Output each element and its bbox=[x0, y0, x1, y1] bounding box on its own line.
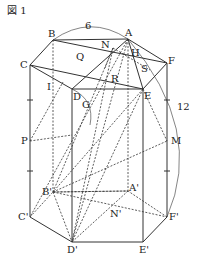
dim-right: 12 bbox=[177, 102, 190, 112]
label-H: H bbox=[131, 48, 140, 58]
label-B-prime: B' bbox=[42, 187, 52, 197]
label-B: B bbox=[48, 29, 55, 39]
dim-top: 6 bbox=[85, 21, 91, 31]
label-D-prime: D' bbox=[67, 245, 78, 255]
label-F-prime: F' bbox=[169, 212, 179, 222]
label-E-prime: E' bbox=[139, 245, 149, 255]
label-A-prime: A' bbox=[129, 183, 139, 193]
label-C: C bbox=[20, 60, 28, 70]
label-D: D bbox=[73, 92, 81, 102]
label-E: E bbox=[144, 91, 151, 101]
prism-diagram bbox=[0, 0, 198, 271]
label-C-prime: C' bbox=[18, 212, 28, 222]
figure: 図 1 6 12 B A F C D E N H Q S R I G P M B… bbox=[0, 0, 198, 271]
label-N: N bbox=[101, 40, 110, 50]
label-R: R bbox=[111, 74, 119, 84]
label-P: P bbox=[21, 136, 28, 146]
label-I: I bbox=[47, 82, 51, 92]
label-A: A bbox=[125, 28, 132, 38]
label-N-prime: N' bbox=[110, 209, 122, 219]
figure-title: 図 1 bbox=[7, 6, 27, 16]
label-M: M bbox=[171, 136, 181, 146]
label-Q: Q bbox=[76, 52, 84, 62]
label-F: F bbox=[168, 56, 175, 66]
label-S: S bbox=[141, 64, 148, 74]
label-G: G bbox=[82, 100, 90, 110]
